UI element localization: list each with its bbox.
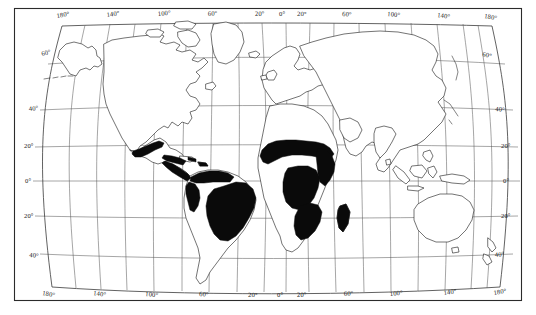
top-label-100e: 100° — [387, 10, 401, 18]
top-label-60e: 60° — [342, 10, 352, 18]
left-label-40s: 40° — [29, 251, 39, 259]
bottom-label-100e: 100° — [389, 289, 403, 297]
left-label-0: 0° — [25, 177, 31, 184]
right-label-20n: 20° — [501, 142, 511, 149]
bottom-label-60e: 60° — [344, 289, 354, 297]
left-label-20s: 20° — [24, 212, 34, 219]
right-label-20s: 20° — [501, 212, 511, 219]
map-figure: 180° 140° 100° 60° 20° 0° 20° 60° 100° 1… — [0, 0, 536, 315]
bottom-label-20e: 20° — [297, 291, 307, 298]
top-label-20w: 20° — [255, 10, 265, 17]
bottom-label-60w: 60° — [199, 290, 209, 298]
left-label-20n: 20° — [24, 142, 34, 149]
bottom-label-0: 0° — [277, 291, 283, 298]
top-label-0: 0° — [279, 10, 285, 17]
right-label-40s: 40° — [494, 250, 504, 258]
top-label-100w: 100° — [157, 9, 171, 17]
bottom-label-100w: 100° — [145, 290, 159, 298]
right-label-40n: 40° — [495, 105, 505, 113]
top-label-60w: 60° — [208, 9, 218, 17]
left-label-40n: 40° — [28, 104, 38, 112]
top-label-20e: 20° — [297, 10, 307, 17]
world-distribution-map: 180° 140° 100° 60° 20° 0° 20° 60° 100° 1… — [0, 0, 536, 315]
right-label-0: 0° — [503, 177, 509, 184]
bottom-label-20w: 20° — [248, 291, 258, 298]
coastline-ireland — [261, 75, 267, 80]
coastline-sri-lanka — [386, 159, 391, 165]
coastline-tasmania — [452, 247, 459, 253]
